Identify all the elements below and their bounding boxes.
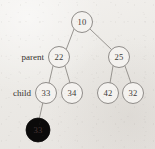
edge-right-to-right-leaf <box>125 66 131 83</box>
node-value: 33 <box>42 88 51 98</box>
tree-canvas: parent child 10 22 25 33 34 <box>0 0 155 149</box>
node-value: 10 <box>78 17 87 27</box>
node-value: 32 <box>129 88 138 98</box>
edge-root-to-right <box>90 29 112 50</box>
node-22[interactable]: 22 <box>49 47 70 68</box>
node-32[interactable]: 32 <box>123 83 144 104</box>
node-25[interactable]: 25 <box>109 47 130 68</box>
node-value: 22 <box>55 52 64 62</box>
child-label: child <box>13 88 31 98</box>
edge-parent-to-sibling <box>65 66 70 83</box>
node-value: 34 <box>68 88 77 98</box>
node-group: 10 22 25 33 34 42 <box>26 12 144 143</box>
node-root-10[interactable]: 10 <box>72 12 93 33</box>
node-33[interactable]: 33 <box>36 83 57 104</box>
node-33-highlight[interactable]: 33 <box>26 118 50 142</box>
node-34[interactable]: 34 <box>62 83 83 104</box>
edge-right-to-left-leaf <box>110 66 113 83</box>
parent-label: parent <box>22 52 45 62</box>
edge-group <box>39 29 131 120</box>
edge-child-to-highlight <box>39 102 43 120</box>
node-42[interactable]: 42 <box>98 83 119 104</box>
edge-root-to-parent <box>66 29 74 50</box>
node-value: 25 <box>115 52 124 62</box>
heap-tree-figure: parent child 10 22 25 33 34 <box>0 0 155 149</box>
node-value: 33 <box>34 125 43 135</box>
node-value: 42 <box>104 88 113 98</box>
edge-parent-to-child <box>49 66 53 83</box>
